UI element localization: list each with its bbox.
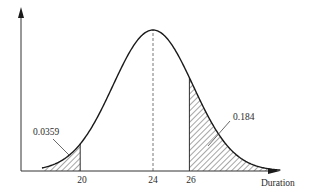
normal-distribution-chart: 0.0359 0.184 20 24 26 Duration [0,0,313,196]
tick-label-26: 26 [186,175,196,185]
left-prob-leader-line [53,139,70,156]
y-axis-arrow-icon [18,7,24,18]
tick-label-20: 20 [77,175,87,185]
left-probability-label: 0.0359 [33,127,59,137]
right-probability-label: 0.184 [233,112,255,122]
right-tail-shaded-region [189,78,271,171]
x-axis-title: Duration [261,178,295,188]
tick-label-24: 24 [148,175,158,185]
